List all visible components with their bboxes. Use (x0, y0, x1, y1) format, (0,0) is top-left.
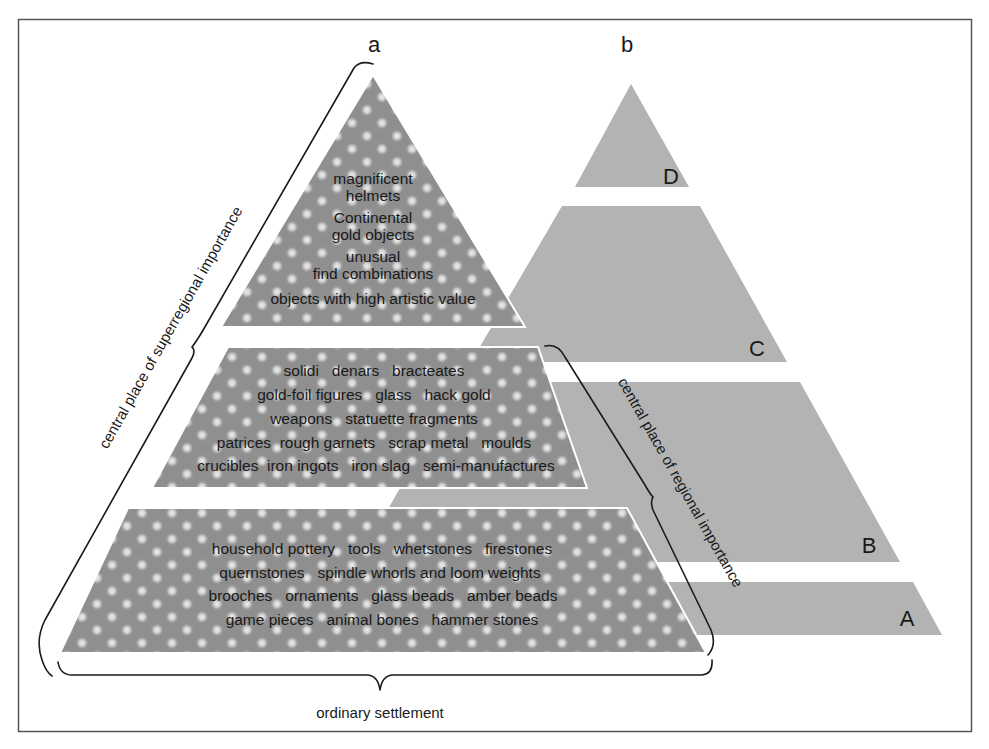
tier-middle-line: patrices rough garnets scrap metal mould… (217, 434, 532, 451)
tier-middle-line: solidi denars bracteates (284, 362, 465, 379)
tier-top-line: helmets (346, 187, 401, 204)
tier-middle-line: crucibles iron ingots iron slag semi-man… (197, 457, 555, 474)
tier-middle-line: gold-foil figures glass hack gold (257, 386, 490, 403)
tier-label-c: C (749, 336, 765, 361)
pyramid-a-label: a (368, 32, 381, 57)
tier-top-line: objects with high artistic value (270, 290, 475, 307)
tier-top-line: unusual (346, 248, 400, 265)
tier-label-d: D (663, 164, 679, 189)
tier-top-line: Continental (334, 209, 412, 226)
tier-bottom-line: brooches ornaments glass beads amber bea… (209, 587, 558, 604)
tier-top-line: find combinations (313, 265, 434, 282)
tier-bottom-line: household pottery tools whetstones fires… (212, 540, 553, 557)
tier-top-line: magnificent (333, 170, 413, 187)
tier-label-a: A (900, 606, 915, 631)
bottom-brace (58, 660, 712, 690)
pyramid-diagram: a b magnificent helmets Continental gold… (0, 0, 989, 749)
pyramid-b-tier-c (471, 206, 787, 362)
bottom-brace-label: ordinary settlement (316, 704, 444, 721)
tier-middle-line: weapons statuette fragments (269, 410, 478, 427)
tier-label-b: B (862, 533, 877, 558)
pyramid-b-label: b (621, 32, 633, 57)
tier-bottom-line: game pieces animal bones hammer stones (226, 611, 539, 628)
tier-bottom-line: quernstones spindle whorls and loom weig… (219, 564, 541, 581)
tier-top-line: gold objects (332, 226, 415, 243)
